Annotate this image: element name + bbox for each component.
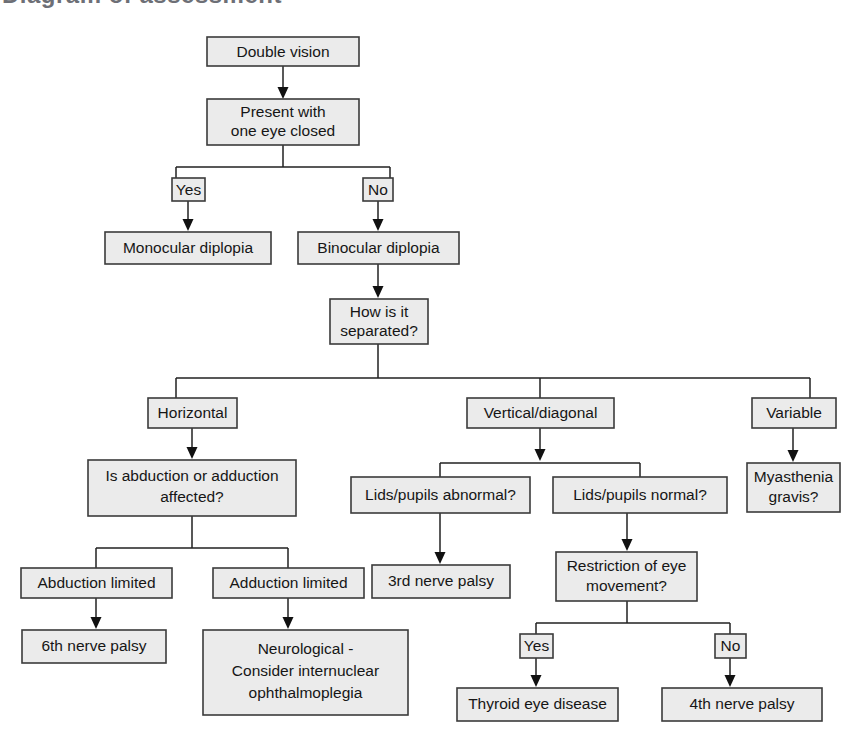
- node-sixth-nerve-palsy[interactable]: 6th nerve palsy: [22, 630, 166, 663]
- arrowhead-icon: [183, 219, 194, 231]
- node-no-1[interactable]: No: [363, 178, 393, 201]
- node-how-line2: separated?: [340, 322, 418, 339]
- node-neuro-line2: Consider internuclear: [232, 662, 379, 679]
- node-neuro-line3: ophthalmoplegia: [249, 684, 363, 701]
- node-adduction-limited-label: Adduction limited: [229, 574, 347, 591]
- node-abdadd-line1: Is abduction or adduction: [105, 467, 278, 484]
- edge-how-split: [176, 344, 810, 398]
- node-thyroid-eye-disease-label: Thyroid eye disease: [468, 695, 607, 712]
- node-restriction-eye-movement[interactable]: Restriction of eye movement?: [556, 552, 697, 601]
- arrowhead-icon: [622, 539, 633, 551]
- node-monocular-diplopia[interactable]: Monocular diplopia: [105, 232, 271, 264]
- diagram-canvas: Double vision Present with one eye close…: [0, 0, 863, 739]
- node-how-line1: How is it: [350, 303, 409, 320]
- arrowhead-icon: [91, 617, 102, 629]
- node-no-2-label: No: [721, 637, 741, 654]
- node-variable[interactable]: Variable: [752, 398, 836, 428]
- edge-restriction-split: [536, 601, 730, 634]
- node-adduction-limited[interactable]: Adduction limited: [213, 568, 364, 598]
- arrowhead-icon: [373, 286, 384, 298]
- node-sixth-nerve-palsy-label: 6th nerve palsy: [41, 637, 146, 654]
- node-myasthenia-line2: gravis?: [769, 488, 819, 505]
- node-how-separated[interactable]: How is it separated?: [330, 299, 428, 344]
- node-myasthenia-line1: Myasthenia: [754, 468, 834, 485]
- node-vertical-diagonal-label: Vertical/diagonal: [484, 404, 598, 421]
- arrowhead-icon: [725, 675, 736, 687]
- node-horizontal-label: Horizontal: [158, 404, 228, 421]
- arrowhead-icon: [535, 449, 546, 461]
- node-lids-pupils-normal[interactable]: Lids/pupils normal?: [553, 477, 727, 513]
- node-yes-2-label: Yes: [524, 637, 550, 654]
- node-present-line1: Present with: [240, 103, 325, 120]
- node-abduction-limited-label: Abduction limited: [37, 574, 155, 591]
- node-third-nerve-palsy[interactable]: 3rd nerve palsy: [372, 565, 510, 598]
- arrowhead-icon: [788, 450, 799, 462]
- node-variable-label: Variable: [766, 404, 822, 421]
- node-vertical-diagonal[interactable]: Vertical/diagonal: [467, 398, 614, 428]
- node-fourth-nerve-palsy[interactable]: 4th nerve palsy: [662, 688, 822, 721]
- node-neurological-ino[interactable]: Neurological - Consider internuclear oph…: [203, 630, 408, 715]
- arrowhead-icon: [435, 552, 446, 564]
- node-no-2[interactable]: No: [715, 634, 746, 658]
- edge-abdadd-split: [96, 516, 288, 568]
- node-lids-pupils-abnormal[interactable]: Lids/pupils abnormal?: [351, 477, 530, 513]
- arrowhead-icon: [373, 219, 384, 231]
- edge-vertical-split: [440, 463, 640, 477]
- node-yes-2[interactable]: Yes: [520, 634, 553, 658]
- node-monocular-diplopia-label: Monocular diplopia: [123, 239, 253, 256]
- node-myasthenia-gravis[interactable]: Myasthenia gravis?: [747, 463, 840, 512]
- arrowhead-icon: [187, 447, 198, 459]
- node-double-vision-label: Double vision: [236, 43, 329, 60]
- arrowhead-icon: [278, 87, 289, 99]
- node-layer: Double vision Present with one eye close…: [21, 37, 840, 721]
- node-lids-abnormal-label: Lids/pupils abnormal?: [365, 486, 516, 503]
- node-double-vision[interactable]: Double vision: [207, 37, 359, 66]
- flowchart-page: Diagram of assessment: [0, 0, 863, 739]
- edge-present-split: [176, 145, 390, 178]
- node-present-one-eye-closed[interactable]: Present with one eye closed: [207, 99, 359, 145]
- node-lids-normal-label: Lids/pupils normal?: [573, 486, 707, 503]
- arrowhead-icon: [531, 675, 542, 687]
- node-yes-1-label: Yes: [176, 181, 202, 198]
- node-thyroid-eye-disease[interactable]: Thyroid eye disease: [457, 688, 618, 721]
- node-restriction-line2: movement?: [586, 577, 667, 594]
- node-no-1-label: No: [368, 181, 388, 198]
- node-fourth-nerve-palsy-label: 4th nerve palsy: [689, 695, 794, 712]
- node-neuro-line1: Neurological -: [258, 640, 354, 657]
- node-horizontal[interactable]: Horizontal: [148, 398, 237, 428]
- node-abduction-adduction-affected[interactable]: Is abduction or adduction affected?: [88, 460, 296, 516]
- node-yes-1[interactable]: Yes: [172, 178, 205, 201]
- node-binocular-diplopia-label: Binocular diplopia: [317, 239, 440, 256]
- node-abdadd-line2: affected?: [160, 488, 224, 505]
- node-restriction-line1: Restriction of eye: [567, 557, 687, 574]
- arrowhead-icon: [283, 617, 294, 629]
- node-third-nerve-palsy-label: 3rd nerve palsy: [388, 572, 494, 589]
- node-present-line2: one eye closed: [231, 122, 335, 139]
- node-binocular-diplopia[interactable]: Binocular diplopia: [298, 232, 459, 264]
- node-abduction-limited[interactable]: Abduction limited: [21, 568, 172, 598]
